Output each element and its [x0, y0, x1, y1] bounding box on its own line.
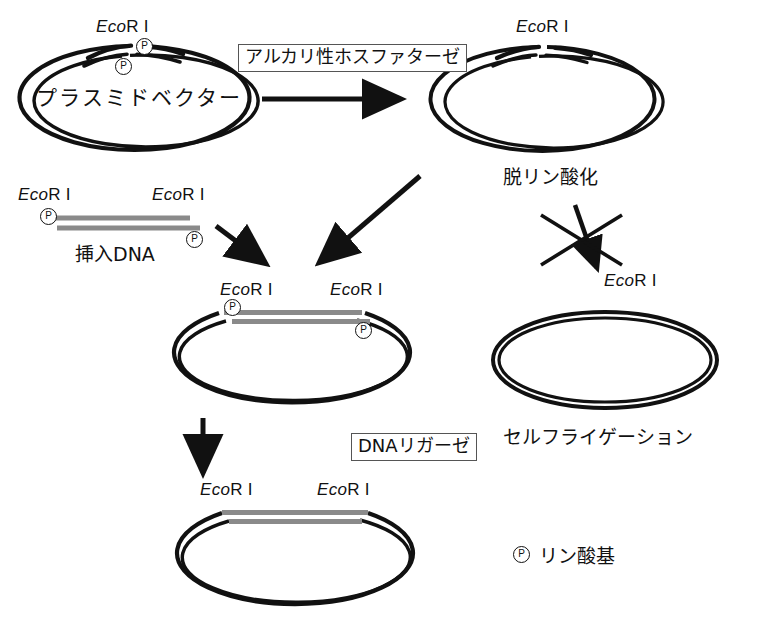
legend: P リン酸基: [513, 541, 615, 568]
ecori-label-vector: EcoR I: [96, 18, 149, 35]
self-ligation-caption: セルフライゲーション: [503, 428, 693, 447]
ecori-label-product-left: EcoR I: [200, 481, 253, 498]
plasmid-vector-label: プラスミドベクター: [36, 88, 242, 109]
legend-label: リン酸基: [539, 541, 615, 568]
ligated-product-shape: [177, 513, 413, 605]
insert-dna-shape: [44, 218, 200, 228]
ecori-label-insert-left: EcoR I: [18, 186, 71, 203]
recombinant-plasmid-shape: [174, 313, 410, 403]
phosphate-vector-top: P: [136, 38, 153, 55]
ecori-label-recombinant-left: EcoR I: [220, 281, 273, 298]
diagram-canvas: EcoR I P P プラスミドベクター アルカリ性ホスファターゼ EcoR I…: [0, 0, 759, 622]
arrow-vector-to-recombinant: [320, 176, 420, 262]
insert-dna-caption: 挿入DNA: [75, 245, 155, 264]
ecori-label-blocked: EcoR I: [604, 272, 657, 289]
ecori-label-recombinant-right: EcoR I: [330, 281, 383, 298]
enzyme-box-dna-ligase: DNAリガーゼ: [351, 433, 477, 461]
phosphate-insert-left: P: [40, 208, 57, 225]
phosphate-recombinant-left: P: [224, 299, 241, 316]
ecori-label-insert-right: EcoR I: [152, 186, 205, 203]
phosphate-recombinant-right: P: [355, 322, 372, 339]
arrow-insert-to-recombinant: [216, 226, 265, 263]
enzyme-box-alkaline-phosphatase: アルカリ性ホスファターゼ: [238, 44, 467, 72]
legend-phosphate-icon: P: [513, 546, 530, 563]
ecori-label-dephos: EcoR I: [516, 18, 569, 35]
ecori-label-product-right: EcoR I: [317, 481, 370, 498]
phosphate-insert-right: P: [186, 231, 203, 248]
phosphate-vector-bottom: P: [115, 58, 132, 75]
dephosphorylation-caption: 脱リン酸化: [503, 168, 598, 187]
self-ligated-plasmid-shape: [493, 312, 717, 408]
blocked-self-ligation-arrow: [541, 205, 622, 268]
